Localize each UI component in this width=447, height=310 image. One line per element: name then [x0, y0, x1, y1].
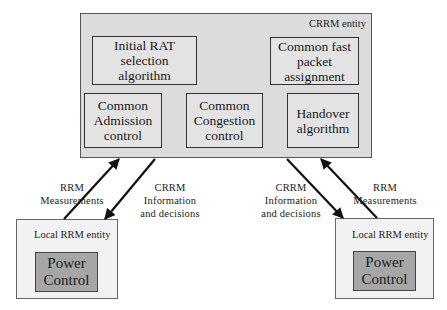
right-decisions-label: CRRM Information and decisions	[256, 181, 326, 220]
right-measurements-label: RRM Measurements	[345, 181, 425, 207]
left-decisions-label: CRRM Information and decisions	[135, 181, 205, 220]
left-measurements-label: RRM Measurements	[20, 181, 124, 207]
connection-arrows	[0, 0, 447, 310]
